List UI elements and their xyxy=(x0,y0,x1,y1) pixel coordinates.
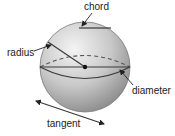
chord-label: chord xyxy=(84,1,109,12)
diameter-label: diameter xyxy=(132,85,172,96)
tangent-label: tangent xyxy=(47,118,81,129)
center-point xyxy=(83,65,87,69)
radius-label: radius xyxy=(7,47,34,58)
sphere-diagram: chord radius diameter tangent xyxy=(0,0,175,136)
